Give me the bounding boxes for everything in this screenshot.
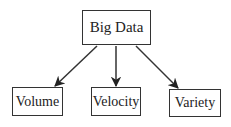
node-big-data: Big Data	[82, 10, 151, 45]
edge-big-data-to-variety	[136, 46, 178, 88]
node-label: Big Data	[90, 19, 144, 36]
node-volume: Volume	[12, 87, 63, 116]
node-label: Variety	[175, 95, 215, 111]
node-variety: Variety	[169, 89, 221, 117]
edge-big-data-to-volume	[55, 46, 97, 86]
node-label: Velocity	[93, 94, 140, 110]
node-velocity: Velocity	[91, 87, 141, 116]
node-label: Volume	[16, 94, 59, 110]
